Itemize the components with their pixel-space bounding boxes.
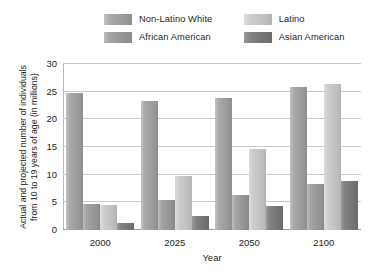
bar-2000-latino	[100, 205, 117, 230]
legend-item-african-american: African American	[104, 32, 222, 43]
y-tick-label-15: 15	[35, 141, 57, 152]
legend-item-non-latino-white: Non-Latino White	[104, 14, 222, 25]
legend-swatch-non-latino-white	[104, 14, 132, 25]
legend-item-asian-american: Asian American	[244, 32, 354, 43]
bar-2100-asian-american	[341, 181, 358, 230]
bar-2025-asian-american	[192, 216, 209, 230]
bar-2050-non-latino-white	[215, 98, 232, 230]
bar-2100-latino	[324, 84, 341, 230]
bar-2000-asian-american	[117, 223, 134, 230]
x-tick-label-2000: 2000	[90, 237, 111, 248]
x-axis-title: Year	[63, 252, 361, 263]
plot-area: 051015202530 2000202520502100	[63, 64, 361, 230]
legend-swatch-latino	[244, 14, 272, 25]
bar-group-2000: 2000	[63, 64, 138, 230]
y-tick-label-5: 5	[35, 196, 57, 207]
legend-label-non-latino-white: Non-Latino White	[139, 14, 212, 25]
bar-2000-african-american	[83, 204, 100, 230]
bar-2050-african-american	[232, 195, 249, 230]
bar-chart: Non-Latino White Latino African American…	[0, 0, 379, 280]
y-tick-label-10: 10	[35, 168, 57, 179]
bar-2025-african-american	[158, 200, 175, 230]
bar-2050-asian-american	[266, 206, 283, 230]
legend-item-latino: Latino	[244, 14, 354, 25]
bar-groups: 2000202520502100	[63, 64, 361, 230]
bar-2000-non-latino-white	[66, 93, 83, 230]
x-tick-label-2025: 2025	[164, 237, 185, 248]
bar-2025-non-latino-white	[141, 101, 158, 230]
bar-2100-non-latino-white	[290, 87, 307, 230]
y-tick-label-30: 30	[35, 58, 57, 69]
x-tick-label-2100: 2100	[313, 237, 334, 248]
legend-label-african-american: African American	[139, 32, 211, 43]
bar-group-2025: 2025	[138, 64, 213, 230]
bar-2050-latino	[249, 149, 266, 230]
legend-label-latino: Latino	[279, 14, 305, 25]
y-tick-label-25: 25	[35, 85, 57, 96]
bar-2025-latino	[175, 176, 192, 230]
bar-2100-african-american	[307, 184, 324, 230]
y-tick-label-20: 20	[35, 113, 57, 124]
legend-swatch-african-american	[104, 32, 132, 43]
x-tick-label-2050: 2050	[239, 237, 260, 248]
legend-label-asian-american: Asian American	[279, 32, 345, 43]
chart-legend: Non-Latino White Latino African American…	[104, 14, 354, 43]
bar-group-2050: 2050	[212, 64, 287, 230]
bar-group-2100: 2100	[287, 64, 362, 230]
legend-swatch-asian-american	[244, 32, 272, 43]
y-tick-label-0: 0	[35, 224, 57, 235]
